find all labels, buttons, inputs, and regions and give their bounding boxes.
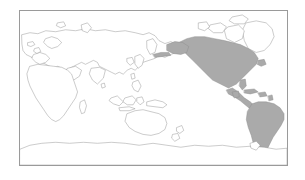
landmass-lesser-antilles[interactable] <box>268 95 273 101</box>
world-map-svg[interactable] <box>20 11 287 165</box>
landmass-sri-lanka <box>101 83 105 88</box>
landmass-taiwan <box>131 73 135 79</box>
page-root <box>0 0 305 180</box>
world-map-frame <box>19 10 288 166</box>
